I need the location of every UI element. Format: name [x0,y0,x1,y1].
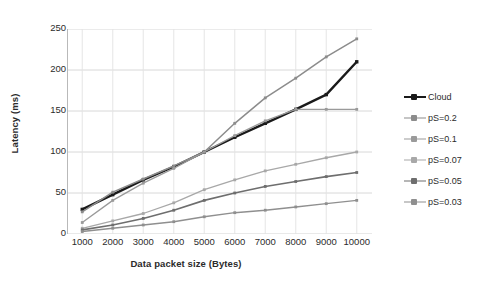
legend-key-icon [404,176,426,186]
series-marker [355,151,358,154]
series-marker [294,77,297,80]
series-marker [172,165,175,168]
series-line [82,173,357,230]
series-marker [81,210,84,213]
series-marker [142,178,145,181]
series-marker [203,151,206,154]
series-marker [355,60,358,63]
series-marker [142,212,145,215]
series-marker [111,199,114,202]
legend-item-label: Cloud [426,92,452,102]
series-marker [355,171,358,174]
series-marker [111,219,114,222]
series-marker [325,55,328,58]
series-marker [81,221,84,224]
series-marker [142,217,145,220]
series-marker [172,201,175,204]
series-marker [294,180,297,183]
series-marker [111,227,114,230]
series-marker [233,192,236,195]
series-marker [264,96,267,99]
legend-item-ps-0-2[interactable]: pS=0.2 [404,107,484,128]
legend-item-label: pS=0.07 [426,155,462,165]
series-marker [294,163,297,166]
series-marker [264,119,267,122]
series-marker [111,224,114,227]
chart-legend: CloudpS=0.2pS=0.1pS=0.07pS=0.05pS=0.03 [404,86,484,212]
series-marker [203,215,206,218]
legend-item-cloud[interactable]: Cloud [404,86,484,107]
legend-item-label: pS=0.1 [426,134,457,144]
series-marker [233,134,236,137]
x-axis-title: Data packet size (Bytes) [0,258,372,269]
series-marker [325,175,328,178]
legend-key-icon [404,197,426,207]
series-marker [203,199,206,202]
series-marker [172,209,175,212]
y-tick-label: 150 [26,104,66,115]
series-marker [264,185,267,188]
series-marker [203,188,206,191]
series-marker [355,108,358,111]
latency-line-chart: Latency (ms) Data packet size (Bytes) 05… [0,0,484,287]
legend-item-ps-0-05[interactable]: pS=0.05 [404,170,484,191]
series-marker [355,37,358,40]
series-line [82,109,357,222]
series-marker [325,108,328,111]
legend-key-icon [404,92,426,102]
series-marker [142,182,145,185]
series-marker [264,169,267,172]
series-marker [81,230,84,233]
series-marker [111,191,114,194]
series-marker [325,156,328,159]
series-marker [294,206,297,209]
series-line [82,39,357,212]
series-marker [233,178,236,181]
series-marker [325,202,328,205]
series-marker [264,209,267,212]
series-marker [294,108,297,111]
series-marker [233,211,236,214]
legend-key-icon [404,113,426,123]
series-canvas [67,29,372,234]
legend-key-icon [404,155,426,165]
legend-item-ps-0-1[interactable]: pS=0.1 [404,128,484,149]
y-tick-label: 100 [26,145,66,156]
series-marker [172,167,175,170]
legend-key-icon [404,134,426,144]
x-tick-label: 10000 [337,236,377,247]
series-marker [142,224,145,227]
series-marker [325,93,328,96]
series-line [82,200,357,231]
y-tick-label: 50 [26,186,66,197]
y-tick-label: 0 [26,227,66,238]
y-tick-label: 250 [26,22,66,33]
legend-item-label: pS=0.03 [426,197,462,207]
legend-item-ps-0-07[interactable]: pS=0.07 [404,149,484,170]
legend-item-ps-0-03[interactable]: pS=0.03 [404,191,484,212]
plot-area [67,29,372,234]
y-axis-title: Latency (ms) [9,64,20,184]
legend-item-label: pS=0.2 [426,113,457,123]
legend-item-label: pS=0.05 [426,176,462,186]
series-marker [172,220,175,223]
y-tick-label: 200 [26,63,66,74]
series-marker [233,122,236,125]
series-marker [355,199,358,202]
